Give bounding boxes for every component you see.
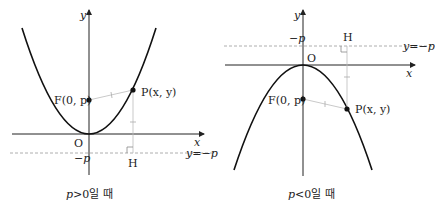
origin-label: O: [307, 52, 316, 65]
directrix-equation-label: y=−p: [402, 40, 435, 53]
caption-p-positive: p>0일 때: [66, 187, 113, 201]
point-p: [344, 106, 349, 111]
right-angle-mark: [341, 46, 347, 52]
directrix-equation-label: y=−p: [185, 147, 218, 160]
focus-label: F(0, p): [268, 94, 305, 107]
tick-fp: [111, 92, 112, 98]
point-p-label: P(x, y): [141, 86, 176, 99]
parabola-diagram: y x O F(0, p) P(x, y) H −p y=−p y x O F(…: [0, 0, 435, 212]
origin-label: O: [74, 137, 83, 150]
directrix-value-label: −p: [289, 32, 305, 45]
caption-p-negative: p<0일 때: [288, 187, 335, 201]
focus-label: F(0, p): [54, 94, 91, 107]
directrix-value-label: −p: [74, 152, 90, 165]
point-p-label: P(x, y): [355, 103, 390, 116]
y-axis-label: y: [79, 9, 87, 22]
y-axis-label: y: [293, 9, 301, 22]
x-axis-label: x: [406, 67, 413, 80]
point-p: [130, 87, 135, 92]
segment-fp: [89, 90, 133, 100]
panel-p-positive: y x O F(0, p) P(x, y) H −p y=−p: [10, 9, 218, 175]
foot-h-label: H: [343, 31, 353, 44]
panel-p-negative: y x O F(0, p) P(x, y) H −p y=−p: [224, 9, 435, 176]
right-angle-mark: [127, 147, 133, 153]
foot-h-label: H: [128, 157, 138, 170]
